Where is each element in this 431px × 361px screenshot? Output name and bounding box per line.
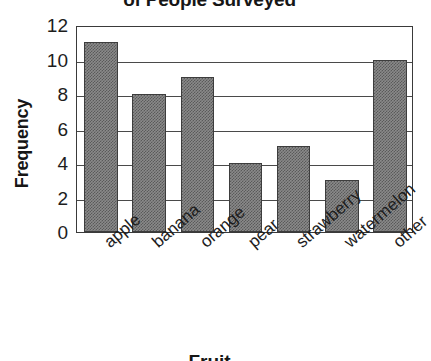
y-axis-tick-label: 4	[26, 154, 68, 173]
bar-banana	[132, 94, 166, 232]
y-axis-tick-label: 8	[26, 85, 68, 104]
plot-area	[76, 26, 413, 233]
y-axis-tick-label: 10	[26, 51, 68, 70]
bar-apple	[84, 42, 118, 232]
gridline	[77, 62, 412, 63]
y-axis-tick-label: 6	[26, 120, 68, 139]
x-axis-title-container: Fruit	[0, 351, 419, 361]
bar-strawberry	[277, 146, 311, 232]
y-axis-tick-label: 0	[26, 223, 68, 242]
y-axis-tick-label: 2	[26, 189, 68, 208]
gridline	[77, 131, 412, 132]
gridline	[77, 96, 412, 97]
y-axis-tick-label: 12	[26, 16, 68, 35]
x-axis-title: Fruit	[0, 351, 419, 361]
